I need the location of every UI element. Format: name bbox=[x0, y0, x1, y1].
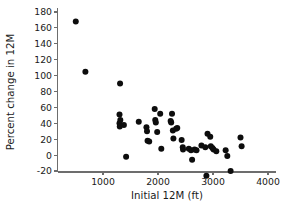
y-tick-label: 40 bbox=[40, 118, 52, 129]
y-tick-label: 60 bbox=[40, 102, 52, 113]
data-point bbox=[189, 157, 195, 163]
data-point bbox=[121, 122, 127, 128]
data-point bbox=[179, 137, 185, 143]
x-tick-label: 2000 bbox=[146, 176, 170, 187]
data-point bbox=[168, 120, 174, 126]
data-point bbox=[224, 153, 230, 159]
x-tick-label: 4000 bbox=[256, 176, 280, 187]
data-point bbox=[136, 119, 142, 125]
data-point bbox=[73, 19, 79, 25]
data-point bbox=[154, 129, 160, 135]
data-point bbox=[144, 128, 150, 134]
data-point bbox=[158, 146, 164, 152]
data-point bbox=[117, 112, 123, 118]
y-tick-label: -20 bbox=[37, 165, 52, 176]
y-tick-label: 20 bbox=[40, 134, 52, 145]
y-tick-label: 180 bbox=[34, 6, 52, 17]
y-tick-label: 0 bbox=[46, 150, 52, 161]
data-point bbox=[157, 111, 163, 117]
y-tick-label: 100 bbox=[34, 70, 52, 81]
data-point-series bbox=[73, 19, 245, 179]
data-point bbox=[153, 120, 159, 126]
data-point bbox=[213, 148, 219, 154]
percent-change-axis: -20020406080100120140160180 bbox=[34, 6, 57, 176]
y-tick-label: 140 bbox=[34, 38, 52, 49]
data-point bbox=[169, 111, 175, 117]
data-point bbox=[123, 154, 129, 160]
data-point bbox=[239, 143, 245, 149]
initial-12m-axis: 1000200030004000 bbox=[58, 172, 280, 187]
y-tick-label: 80 bbox=[40, 86, 52, 97]
y-tick-label: 160 bbox=[34, 22, 52, 33]
data-point bbox=[174, 125, 180, 131]
x-axis-title: Initial 12M (ft) bbox=[131, 190, 203, 201]
data-point bbox=[223, 147, 229, 153]
y-tick-label: 120 bbox=[34, 54, 52, 65]
data-point bbox=[152, 106, 158, 112]
data-point bbox=[238, 135, 244, 141]
data-point bbox=[170, 135, 176, 141]
data-point bbox=[228, 168, 234, 174]
plot-canvas: -20020406080100120140160180 100020003000… bbox=[0, 0, 290, 205]
data-point bbox=[203, 173, 209, 179]
data-point bbox=[117, 81, 123, 87]
data-point bbox=[194, 147, 200, 153]
scatter-plot-figure: -20020406080100120140160180 100020003000… bbox=[0, 0, 290, 205]
data-point bbox=[207, 134, 213, 140]
data-point bbox=[146, 139, 152, 145]
data-point bbox=[82, 69, 88, 75]
data-point bbox=[202, 144, 208, 150]
x-tick-label: 1000 bbox=[91, 176, 115, 187]
y-axis-title: Percent change in 12M bbox=[5, 34, 16, 151]
data-point bbox=[180, 147, 186, 153]
